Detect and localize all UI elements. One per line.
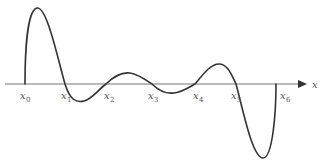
svg-text:1: 1 [67,96,71,104]
svg-text:4: 4 [199,96,204,104]
point-label-x6: x 6 [280,90,291,104]
point-label-x1: x 1 [61,90,71,104]
svg-text:0: 0 [26,96,30,104]
function-curve [25,8,276,158]
svg-text:6: 6 [286,96,291,104]
point-label-x4: x 4 [193,90,204,104]
point-label-x3: x 3 [148,90,158,104]
point-label-x5: x 5 [231,90,241,104]
function-graph: x x 0 x 1 x 2 x 3 x 4 x 5 x 6 [0,0,321,163]
axis-label: x [312,79,318,90]
svg-text:3: 3 [154,96,158,104]
svg-text:5: 5 [237,96,241,104]
axis-arrow-icon [298,80,307,88]
point-label-x0: x 0 [20,90,30,104]
svg-text:2: 2 [110,96,114,104]
point-label-x2: x 2 [104,90,114,104]
